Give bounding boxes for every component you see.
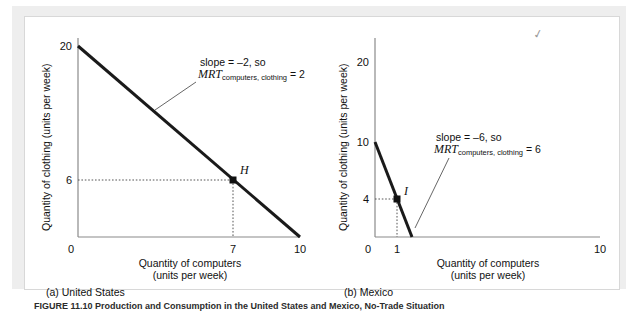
mx-x-tick-10: 10 — [592, 243, 608, 256]
us-x-tick-0: 0 — [64, 243, 78, 256]
us-x-axis-title-line2: (units per week) — [110, 269, 270, 281]
us-y-tick-20: 20 — [44, 40, 72, 53]
us-x-axis-title-line1: Quantity of computers — [110, 257, 270, 269]
us-annotation-mrt: MRTcomputers, clothing = 2 — [198, 68, 305, 82]
us-x-tick-7: 7 — [226, 243, 240, 256]
figure-root: Quantity of clothing (units per week) 20… — [0, 0, 638, 313]
us-point-h-label: H — [240, 164, 249, 178]
mx-x-tick-1: 1 — [390, 243, 404, 256]
mx-x-tick-0: 0 — [361, 243, 375, 256]
us-annotation-mrt-value: = 2 — [290, 68, 305, 80]
mx-x-axis-title-line2: (units per week) — [408, 269, 568, 281]
us-y-axis-title: Quantity of clothing (units per week) — [40, 64, 52, 232]
mx-y-tick-4: 4 — [341, 193, 369, 206]
us-x-tick-10: 10 — [292, 243, 308, 256]
us-annotation-mrt-symbol: MRT — [198, 67, 222, 81]
mx-y-tick-10: 10 — [341, 136, 369, 149]
figure-caption: FIGURE 11.10 Production and Consumption … — [34, 301, 634, 311]
mx-annotation-mrt-subscript: computers, clothing — [458, 148, 523, 157]
mx-annotation-mrt-symbol: MRT — [434, 142, 458, 156]
us-annotation-mrt-subscript: computers, clothing — [222, 73, 287, 82]
mx-annotation-mrt: MRTcomputers, clothing = 6 — [434, 143, 541, 157]
us-panel-caption: (a) United States — [46, 286, 125, 298]
us-y-tick-6: 6 — [44, 174, 72, 187]
mx-x-axis-title-line1: Quantity of computers — [408, 257, 568, 269]
mx-point-i-label: I — [404, 185, 408, 199]
mx-panel-caption: (b) Mexico — [344, 286, 393, 298]
mx-annotation-mrt-value: = 6 — [526, 143, 541, 155]
mx-y-tick-20: 20 — [341, 56, 369, 69]
